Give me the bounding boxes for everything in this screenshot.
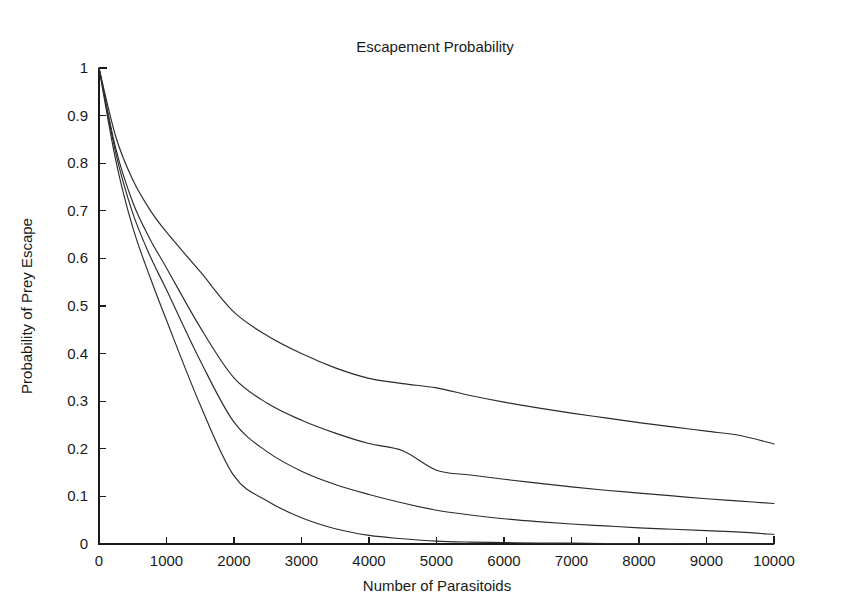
y-tick-label: 0.1	[67, 487, 88, 504]
x-tick-label: 2000	[217, 552, 250, 569]
y-tick-label: 0	[80, 535, 88, 552]
data-curves-group	[99, 68, 774, 544]
figure-canvas: Escapement Probability Number of Parasit…	[0, 0, 847, 615]
y-axis-ticks: 00.10.20.30.40.50.60.70.80.91	[67, 59, 106, 552]
x-tick-label: 7000	[555, 552, 588, 569]
y-tick-label: 0.9	[67, 107, 88, 124]
data-curve-3	[99, 68, 774, 534]
y-tick-label: 0.6	[67, 249, 88, 266]
x-tick-label: 8000	[622, 552, 655, 569]
x-tick-label: 9000	[690, 552, 723, 569]
x-tick-label: 0	[95, 552, 103, 569]
data-curve-4	[99, 68, 774, 544]
x-tick-label: 6000	[487, 552, 520, 569]
y-tick-label: 0.3	[67, 392, 88, 409]
axis-frame	[99, 68, 774, 544]
data-curve-2	[99, 68, 774, 504]
x-tick-label: 1000	[150, 552, 183, 569]
x-axis-label: Number of Parasitoids	[363, 577, 511, 594]
x-tick-label: 3000	[285, 552, 318, 569]
x-tick-label: 10000	[753, 552, 795, 569]
y-tick-label: 0.7	[67, 202, 88, 219]
escapement-probability-chart: Escapement Probability Number of Parasit…	[0, 0, 847, 615]
y-tick-label: 0.5	[67, 297, 88, 314]
y-tick-label: 0.8	[67, 154, 88, 171]
x-tick-label: 4000	[352, 552, 385, 569]
y-tick-label: 0.2	[67, 440, 88, 457]
y-axis-label: Probability of Prey Escape	[18, 218, 35, 394]
y-tick-label: 1	[80, 59, 88, 76]
chart-title: Escapement Probability	[356, 38, 514, 55]
x-tick-label: 5000	[420, 552, 453, 569]
data-curve-1	[99, 68, 774, 444]
y-tick-label: 0.4	[67, 345, 88, 362]
